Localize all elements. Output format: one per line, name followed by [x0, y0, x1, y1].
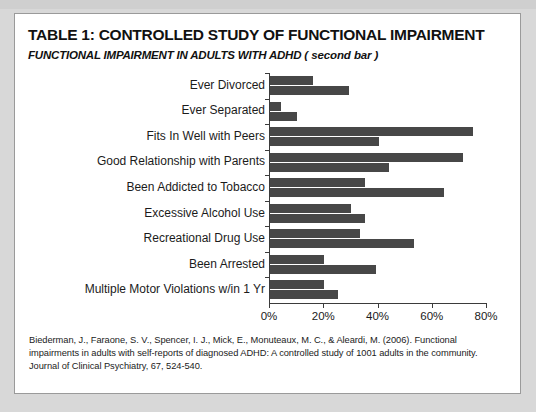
x-axis-tick: [269, 303, 270, 308]
y-axis-tick: [265, 226, 269, 227]
subtitle-note: ( second bar ): [304, 49, 378, 61]
subtitle-text: FUNCTIONAL IMPAIRMENT IN ADULTS WITH ADH…: [28, 49, 301, 61]
x-axis-tick: [432, 303, 433, 308]
citation-text: Biederman, J., Faraone, S. V., Spencer, …: [29, 334, 499, 374]
y-axis-tick: [265, 201, 269, 202]
bar: [270, 280, 324, 289]
bar: [270, 127, 473, 136]
x-axis-label: 60%: [420, 310, 443, 322]
bar: [270, 290, 338, 299]
bar: [270, 86, 349, 95]
table-card: TABLE 1: CONTROLLED STUDY OF FUNCTIONAL …: [14, 13, 521, 394]
y-axis-tick: [265, 73, 269, 74]
x-axis-label: 0%: [261, 310, 278, 322]
category-label: Been Addicted to Tobacco: [126, 180, 265, 194]
bar: [270, 239, 414, 248]
y-axis-tick: [265, 99, 269, 100]
category-label: Ever Separated: [182, 103, 265, 117]
y-axis-tick: [265, 150, 269, 151]
x-axis-label: 20%: [312, 310, 335, 322]
category-label: Recreational Drug Use: [144, 231, 265, 245]
y-axis-tick: [265, 277, 269, 278]
bar: [270, 188, 444, 197]
bar: [270, 204, 351, 213]
bar: [270, 112, 297, 121]
bar: [270, 76, 313, 85]
bar: [270, 178, 365, 187]
page-title: TABLE 1: CONTROLLED STUDY OF FUNCTIONAL …: [28, 26, 485, 44]
y-axis-tick: [265, 124, 269, 125]
x-axis-label: 80%: [474, 310, 497, 322]
category-label: Multiple Motor Violations w/in 1 Yr: [85, 282, 265, 296]
category-label: Fits In Well with Peers: [147, 129, 265, 143]
bar: [270, 229, 360, 238]
plot-area: 0%20%40%60%80%: [269, 73, 486, 303]
category-label: Good Relationship with Parents: [97, 154, 265, 168]
x-axis-tick: [378, 303, 379, 308]
x-axis-tick: [323, 303, 324, 308]
bar-chart: Ever DivorcedEver SeparatedFits In Well …: [15, 71, 522, 329]
x-axis-label: 40%: [366, 310, 389, 322]
page-top-strip: [0, 0, 536, 9]
bar: [270, 214, 365, 223]
bar: [270, 265, 376, 274]
x-axis-tick: [486, 303, 487, 308]
category-labels: Ever DivorcedEver SeparatedFits In Well …: [15, 73, 265, 303]
category-label: Excessive Alcohol Use: [144, 206, 265, 220]
y-axis-tick: [265, 252, 269, 253]
category-label: Ever Divorced: [190, 78, 265, 92]
bar: [270, 153, 463, 162]
y-axis-tick: [265, 175, 269, 176]
page-subtitle: FUNCTIONAL IMPAIRMENT IN ADULTS WITH ADH…: [28, 49, 378, 61]
bar: [270, 137, 379, 146]
bar: [270, 255, 324, 264]
bar: [270, 163, 389, 172]
category-label: Been Arrested: [189, 257, 265, 271]
bar: [270, 102, 281, 111]
